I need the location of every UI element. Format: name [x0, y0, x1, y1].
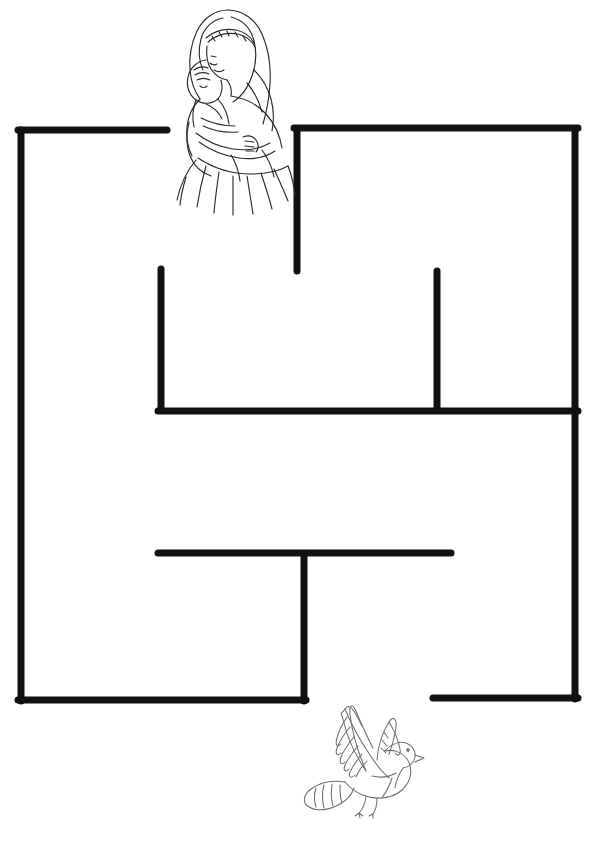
activity-page: Mother and Child Maze: [0, 0, 597, 841]
maze-diagram: [0, 0, 597, 841]
maze-wall-group: [18, 128, 578, 701]
